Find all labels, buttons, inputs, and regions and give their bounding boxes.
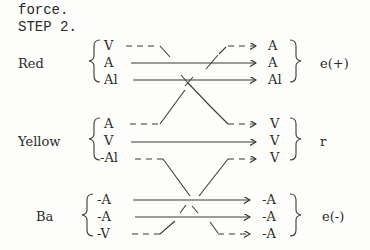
brace-red-right — [290, 40, 301, 82]
arrow-diagram — [0, 0, 370, 250]
brace-ba-left — [82, 194, 93, 236]
brace-ba-right — [290, 194, 301, 236]
brace-yellow-left — [89, 118, 100, 160]
brace-yellow-right — [290, 118, 301, 160]
brace-red-left — [89, 40, 100, 82]
